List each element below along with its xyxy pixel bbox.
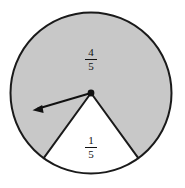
unshaded-denominator: 5 [88,148,94,160]
spinner-diagram: 4 5 1 5 [0,0,185,188]
shaded-numerator: 4 [88,46,94,58]
unshaded-numerator: 1 [88,134,94,146]
spinner-hub [88,90,95,97]
spinner-figure: 4 5 1 5 [0,0,185,188]
shaded-denominator: 5 [88,60,94,72]
